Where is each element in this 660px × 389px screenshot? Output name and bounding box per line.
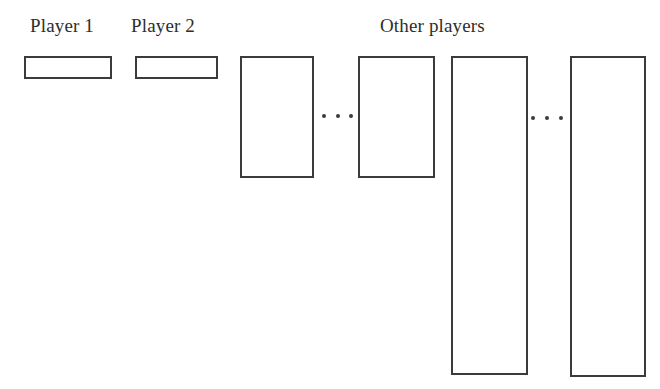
- bar-other-2: [358, 56, 435, 178]
- bar-other-3: [451, 56, 528, 375]
- ellipsis-2: [531, 115, 563, 120]
- ellipsis-dot: [349, 114, 353, 118]
- bar-player-1: [24, 56, 112, 79]
- ellipsis-dot: [559, 116, 563, 120]
- label-other-players: Other players: [380, 16, 485, 35]
- ellipsis-dot: [336, 114, 340, 118]
- figure-canvas: Player 1Player 2Other players: [0, 0, 660, 389]
- bar-other-1: [240, 56, 314, 178]
- ellipsis-dot: [531, 116, 535, 120]
- bar-player-2: [135, 56, 218, 79]
- label-player-2: Player 2: [131, 16, 195, 35]
- ellipsis-dot: [322, 114, 326, 118]
- label-player-1: Player 1: [30, 16, 94, 35]
- ellipsis-dot: [545, 116, 549, 120]
- ellipsis-1: [322, 113, 353, 118]
- bar-other-4: [570, 56, 646, 377]
